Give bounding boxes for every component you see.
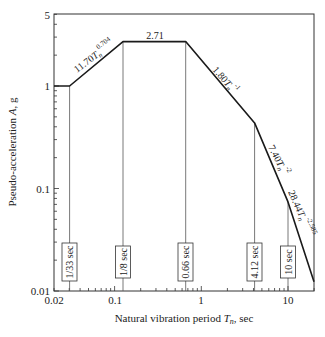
y-tick-1: 1: [45, 80, 51, 92]
y-axis-label: Pseudo-acceleration A, g: [6, 97, 18, 207]
y-tick-labels: 5 1 0.1 0.01: [31, 9, 51, 297]
label-plateau: 2.71: [146, 30, 164, 41]
y-tick-5: 5: [45, 9, 51, 21]
y-axis-ticks: [54, 14, 59, 291]
svg-text:1/8 sec: 1/8 sec: [118, 247, 129, 276]
marker-1-8-sec: 1/8 sec: [116, 246, 131, 278]
svg-text:4.12 sec: 4.12 sec: [249, 245, 260, 278]
marker-1-33-sec: 1/33 sec: [62, 243, 77, 281]
label-displacement-branch: 7.40Tn-2: [264, 142, 293, 179]
svg-text:0.66 sec: 0.66 sec: [180, 245, 191, 278]
svg-text:1/33 sec: 1/33 sec: [64, 245, 75, 279]
design-spectrum-chart: 5 1 0.1 0.01 0.02 0.1 1 10 Natural vibra…: [0, 0, 325, 337]
x-tick-0.02: 0.02: [44, 294, 63, 306]
y-tick-0.1: 0.1: [36, 183, 50, 195]
marker-10-sec: 10 sec: [281, 246, 296, 278]
marker-0.66-sec: 0.66 sec: [178, 243, 193, 281]
x-tick-labels: 0.02 0.1 1 10: [44, 294, 294, 306]
x-tick-1: 1: [198, 294, 204, 306]
x-tick-10: 10: [283, 294, 295, 306]
svg-text:10 sec: 10 sec: [283, 249, 294, 275]
x-tick-0.1: 0.1: [108, 294, 122, 306]
label-velocity-branch: 1.80Tn-1: [209, 62, 243, 97]
x-axis-label: Natural vibration period Tn, sec: [115, 312, 254, 326]
period-marker-boxes: 1/33 sec 1/8 sec 0.66 sec 4.12 sec 10 se…: [62, 243, 296, 281]
marker-4.12-sec: 4.12 sec: [247, 243, 262, 281]
label-ascending-branch: 11.70Tn0.704: [70, 35, 118, 76]
x-axis-ticks: [54, 286, 314, 291]
